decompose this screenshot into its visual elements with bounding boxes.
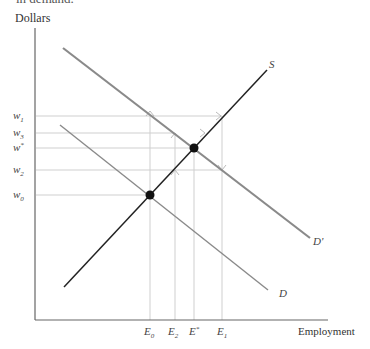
demand-shifted-curve [63,48,310,238]
wage-label-w3: w3 [13,126,24,141]
axes [35,28,328,320]
demand-original-curve [60,125,268,290]
employment-label-Estar: E* [188,325,200,337]
supply-curve [64,70,267,287]
employment-labels: E0 E2 E* E1 [143,325,227,340]
employment-label-E1: E1 [216,325,227,340]
demand-shifted-label: D' [312,235,324,247]
employment-label-E0: E0 [143,325,155,340]
wage-labels: w1 w3 w* w2 w0 [13,109,24,203]
wage-label-w2: w2 [13,163,24,178]
demand-original-label: D [278,287,287,299]
arrow-icon [200,129,205,137]
supply-label: S [269,58,275,70]
wage-label-w1: w1 [13,109,24,124]
wage-label-w0: w0 [13,188,24,203]
equilibrium-point-new [190,144,199,153]
employment-guides [150,116,222,320]
equilibrium-point-initial [146,191,155,200]
x-axis-label: Employment [298,325,355,337]
diagram-canvas: S D' D w1 w3 w* w2 w0 E0 E2 E* E1 Employ… [0,0,370,349]
employment-label-E2: E2 [167,325,179,340]
wage-label-wstar: w* [13,141,24,153]
